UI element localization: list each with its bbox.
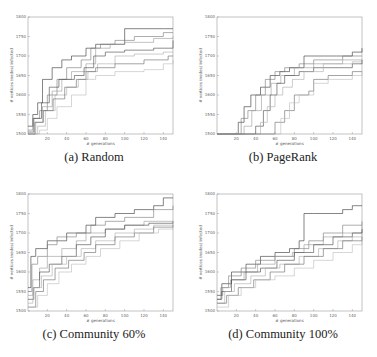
y-tick-label: 1700 [16, 230, 27, 235]
y-tick-label: 1500 [16, 308, 27, 313]
y-tick-label: 1500 [16, 131, 27, 136]
y-tick-label: 1750 [205, 34, 216, 39]
x-tick-label: 100 [310, 136, 318, 141]
x-tick-label: 20 [45, 136, 51, 141]
y-axis-label: # vertices (nodes) infected [198, 225, 203, 280]
y-tick-label: 1800 [16, 191, 27, 196]
y-tick-label: 1600 [16, 269, 27, 274]
x-tick-label: 20 [45, 313, 51, 318]
y-tick-label: 1600 [16, 92, 27, 97]
x-tick-label: 140 [349, 313, 357, 318]
x-tick-label: 140 [160, 136, 168, 141]
x-tick-label: 40 [64, 136, 70, 141]
y-axis-label: # vertices (nodes) infected [9, 48, 14, 103]
y-tick-label: 1600 [205, 269, 216, 274]
y-tick-label: 1550 [205, 289, 216, 294]
y-tick-label: 1750 [205, 211, 216, 216]
x-tick-label: 40 [64, 313, 70, 318]
caption-community-60: (c) Community 60% [0, 327, 188, 342]
y-tick-label: 1650 [16, 250, 27, 255]
y-tick-label: 1750 [16, 34, 27, 39]
x-axis-label: # generations [86, 318, 114, 323]
y-tick-label: 1550 [16, 112, 27, 117]
caption-random: (a) Random [0, 150, 188, 165]
x-axis-label: # generations [86, 141, 114, 146]
y-tick-label: 1500 [205, 131, 216, 136]
x-tick-label: 40 [253, 313, 259, 318]
y-tick-label: 1650 [16, 73, 27, 78]
chart-pagerank: 1500155016001650170017501800204060801001… [189, 0, 377, 150]
panel-community-60: 1500155016001650170017501800204060801001… [0, 177, 188, 355]
x-tick-label: 40 [253, 136, 259, 141]
x-tick-label: 140 [349, 136, 357, 141]
y-tick-label: 1550 [205, 112, 216, 117]
y-tick-label: 1750 [16, 211, 27, 216]
y-tick-label: 1600 [205, 92, 216, 97]
panel-pagerank: 1500155016001650170017501800204060801001… [189, 0, 377, 178]
x-tick-label: 120 [140, 313, 148, 318]
x-axis-label: # generations [275, 141, 303, 146]
y-tick-label: 1800 [205, 14, 216, 19]
x-tick-label: 20 [234, 136, 240, 141]
y-axis-label: # vertices (nodes) infected [198, 48, 203, 103]
chart-random: 1500155016001650170017501800204060801001… [0, 0, 188, 150]
y-axis-label: # vertices (nodes) infected [9, 225, 14, 280]
x-axis-label: # generations [275, 318, 303, 323]
y-tick-label: 1800 [205, 191, 216, 196]
chart-community-100: 1500155016001650170017501800204060801001… [189, 177, 377, 327]
y-tick-label: 1650 [205, 250, 216, 255]
caption-community-100: (d) Community 100% [189, 327, 377, 342]
y-tick-label: 1700 [205, 53, 216, 58]
y-tick-label: 1700 [205, 230, 216, 235]
y-tick-label: 1800 [16, 14, 27, 19]
x-tick-label: 140 [160, 313, 168, 318]
y-tick-label: 1500 [205, 308, 216, 313]
x-tick-label: 120 [140, 136, 148, 141]
caption-pagerank: (b) PageRank [189, 150, 377, 165]
chart-community-60: 1500155016001650170017501800204060801001… [0, 177, 188, 327]
x-tick-label: 20 [234, 313, 240, 318]
panel-community-100: 1500155016001650170017501800204060801001… [189, 177, 377, 355]
x-tick-label: 120 [329, 313, 337, 318]
panel-random: 1500155016001650170017501800204060801001… [0, 0, 188, 178]
y-tick-label: 1700 [16, 53, 27, 58]
y-tick-label: 1550 [16, 289, 27, 294]
x-tick-label: 100 [121, 313, 129, 318]
x-tick-label: 120 [329, 136, 337, 141]
y-tick-label: 1650 [205, 73, 216, 78]
x-tick-label: 100 [310, 313, 318, 318]
x-tick-label: 100 [121, 136, 129, 141]
